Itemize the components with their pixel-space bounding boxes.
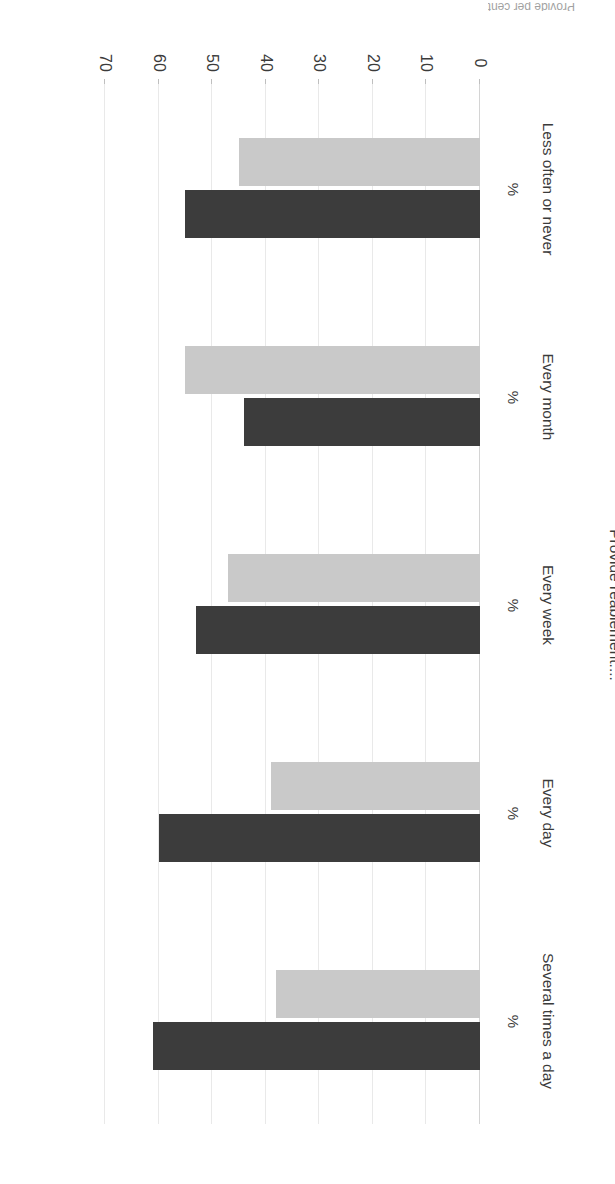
category-axis-title: Provide reablement.... bbox=[606, 475, 615, 735]
category-label-4: Less often or never bbox=[539, 94, 557, 284]
category-label-1: Every day bbox=[539, 718, 557, 908]
category-label-0: Several times a day bbox=[539, 926, 557, 1116]
bar-chart-figure: Provide per cent Have you seriously cons… bbox=[0, 0, 615, 1184]
category-label-2: Every week bbox=[539, 510, 557, 700]
category-unit-label-3: % bbox=[505, 368, 522, 428]
rotated-figure-wrapper: Provide per cent Have you seriously cons… bbox=[0, 0, 615, 1184]
category-unit-label-1: % bbox=[505, 784, 522, 844]
category-label-3: Every month bbox=[539, 302, 557, 492]
category-axis: Several times a day%Every day%Every week… bbox=[0, 0, 615, 1184]
category-unit-label-0: % bbox=[505, 992, 522, 1052]
category-unit-label-4: % bbox=[505, 160, 522, 220]
category-unit-label-2: % bbox=[505, 576, 522, 636]
